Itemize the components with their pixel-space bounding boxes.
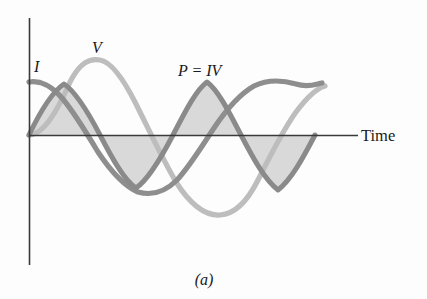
label-current: I — [33, 58, 40, 75]
label-voltage: V — [92, 39, 104, 56]
ac-power-waveform-figure: I V P = IV Time (a) — [0, 0, 427, 299]
figure-caption: (a) — [195, 271, 214, 289]
label-power: P = IV — [177, 62, 224, 79]
label-time-axis: Time — [361, 126, 395, 145]
